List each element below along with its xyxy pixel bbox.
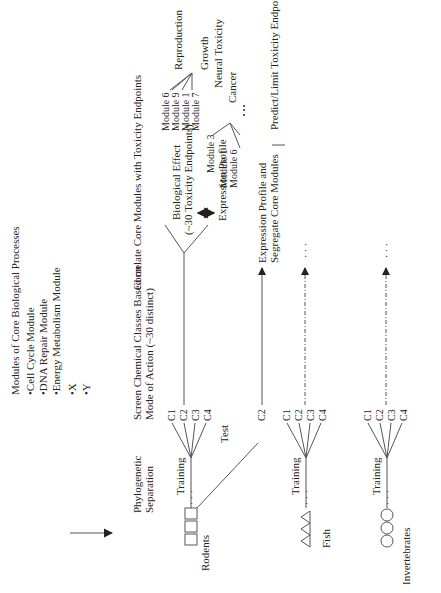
- endpoint-neural-toxicity: Neural Toxicity: [212, 19, 224, 88]
- ellipsis-icon: ⋮: [237, 105, 251, 117]
- modules-title: Modules of Core Biological Processes: [9, 226, 21, 395]
- module-label: Module 7: [190, 92, 202, 131]
- correlate-label: Correlate Core Modules with Toxicity End…: [131, 75, 143, 290]
- predict-label: Predict/Limit Toxicity Endpoints to Eval…: [268, 0, 280, 130]
- biological-effect-label-2: (~30 Toxicity Endpoints): [182, 124, 194, 235]
- phylogenetic-label: Phylogenetic: [131, 456, 143, 513]
- module-label: Module 6: [228, 149, 240, 188]
- class-label: C4: [317, 409, 329, 421]
- svg-text:· · ·: · · ·: [300, 243, 311, 258]
- diagram-lines: · · · · · ·: [0, 0, 441, 593]
- rodents-label: Rodents: [199, 535, 211, 571]
- endpoint-growth: Growth: [198, 36, 210, 70]
- test-outcome-label-2: Segregate Core Modules: [268, 154, 280, 263]
- invertebrates-label: Invertebrates: [400, 528, 412, 585]
- class-label: C2: [178, 409, 190, 421]
- module-item: •X: [66, 383, 78, 395]
- svg-text:· · ·: · · ·: [381, 243, 392, 258]
- class-label: C3: [305, 409, 317, 421]
- phylogenetic-label-2: Separation: [143, 466, 155, 513]
- test-label: Test: [218, 425, 230, 443]
- training-label: Training: [174, 458, 186, 496]
- training-label: Training: [370, 458, 382, 496]
- fish-label: Fish: [320, 529, 332, 548]
- training-label: Training: [289, 458, 301, 496]
- module-label: Module 3: [205, 134, 217, 173]
- test-outcome-label: Expression Profile and: [256, 163, 268, 263]
- class-label: C3: [190, 409, 202, 421]
- module-item: •Cell Cycle Module: [24, 307, 36, 395]
- module-item: •Energy Metabolism Module: [50, 267, 62, 395]
- class-label: C1: [281, 409, 293, 421]
- endpoint-reproduction: Reproduction: [172, 10, 184, 70]
- diagram-canvas: · · · · · ·: [0, 0, 441, 593]
- class-label: C2: [293, 409, 305, 421]
- biological-effect-label: Biological Effect: [170, 145, 182, 220]
- module-item: •DNA Repair Module: [37, 299, 49, 395]
- endpoint-cancer: Cancer: [226, 72, 238, 103]
- class-label: C1: [362, 409, 374, 421]
- test-class-label: C2: [256, 409, 268, 421]
- class-label: C4: [202, 409, 214, 421]
- class-label: C4: [398, 409, 410, 421]
- screen-label-2: Mode of Action (~30 distinct): [143, 288, 155, 420]
- module-item: •Y: [80, 383, 92, 395]
- class-label: C3: [386, 409, 398, 421]
- class-label: C2: [374, 409, 386, 421]
- class-label: C1: [166, 409, 178, 421]
